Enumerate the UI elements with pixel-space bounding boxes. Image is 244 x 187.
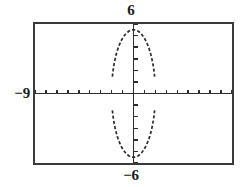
y-min-label: −6: [9, 168, 244, 183]
calculator-screenshot: 6 −9 −6: [0, 0, 244, 187]
x-min-label: −9: [2, 86, 30, 101]
plot-canvas: [35, 24, 232, 163]
plot-frame: [33, 22, 234, 165]
axes-group: [35, 24, 232, 163]
y-max-label: 6: [9, 3, 244, 18]
